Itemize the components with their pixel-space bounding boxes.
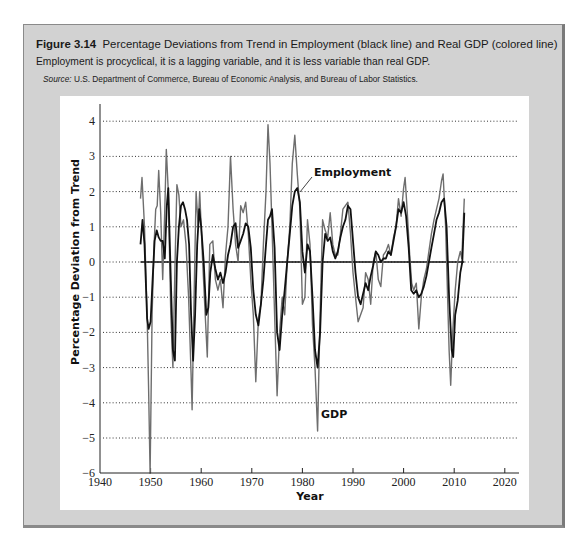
- x-tick-label: 1970: [240, 475, 264, 489]
- y-axis-ticks: 43210−1−2−3−4−5−6: [82, 114, 95, 480]
- x-axis-ticks: 194019501960197019801990200020102020: [88, 468, 517, 489]
- y-axis-label: Percentage Deviation from Trend: [69, 159, 82, 365]
- y-tick-label: −4: [82, 396, 95, 410]
- x-tick-label: 2000: [392, 475, 416, 489]
- gdp-annotation: GDP: [321, 408, 347, 421]
- x-tick-label: 1960: [189, 475, 213, 489]
- employment-leader-line: [300, 177, 312, 192]
- y-tick-label: −3: [82, 361, 95, 375]
- line-chart: 43210−1−2−3−4−5−6 1940195019601970198019…: [0, 0, 587, 557]
- x-tick-label: 2010: [442, 475, 466, 489]
- y-tick-label: −2: [82, 325, 95, 339]
- y-tick-label: 1: [89, 220, 95, 234]
- employment-annotation: Employment: [314, 166, 391, 179]
- y-tick-label: 3: [89, 149, 95, 163]
- y-tick-label: 0: [89, 255, 95, 269]
- y-tick-label: −5: [82, 431, 95, 445]
- x-tick-label: 1990: [341, 475, 365, 489]
- x-tick-label: 1980: [290, 475, 314, 489]
- y-tick-label: 4: [89, 114, 95, 128]
- x-tick-label: 2020: [493, 475, 517, 489]
- gdp-series-line: [141, 125, 465, 474]
- y-tick-label: 2: [89, 185, 95, 199]
- y-tick-label: −1: [82, 290, 95, 304]
- x-tick-label: 1950: [139, 475, 163, 489]
- x-axis-label: Year: [295, 490, 324, 503]
- x-tick-label: 1940: [88, 475, 112, 489]
